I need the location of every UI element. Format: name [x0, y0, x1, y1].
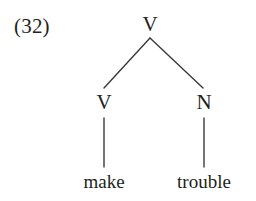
tree-node-root: V: [142, 14, 157, 35]
branch-line-right: [150, 38, 203, 88]
tree-terminal-right: trouble: [177, 172, 231, 191]
tree-node-left-child: V: [96, 92, 111, 113]
tree-terminal-left: make: [83, 172, 124, 191]
tree-node-right-child: N: [196, 92, 211, 113]
branch-line-left: [104, 38, 150, 88]
syntax-tree-figure: (32) V V N make trouble: [0, 0, 256, 201]
